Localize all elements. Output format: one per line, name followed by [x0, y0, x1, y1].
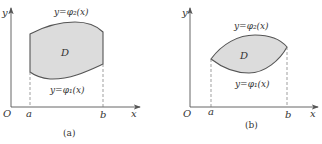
double-integral-regions-figure: y x O a b D y=φ₂(x) y=φ₁(x) (a) y x O a … — [0, 0, 322, 144]
x-axis-label: x — [131, 108, 137, 119]
b-label: b — [285, 109, 291, 120]
origin-label: O — [3, 108, 11, 119]
region-label: D — [239, 50, 248, 61]
panel-b: y x O a b D y=φ₂(x) y=φ₁(x) (b) — [181, 7, 318, 130]
upper-curve-label: y=φ₂(x) — [233, 21, 269, 31]
y-axis-label: y — [1, 7, 8, 18]
lower-curve-label: y=φ₁(x) — [49, 85, 85, 95]
region-d — [211, 35, 287, 73]
lower-curve-label: y=φ₁(x) — [234, 79, 270, 89]
y-axis-label: y — [181, 7, 188, 18]
caption-b: (b) — [245, 120, 258, 130]
a-label: a — [26, 108, 32, 119]
origin-label: O — [183, 108, 191, 119]
upper-curve-label: y=φ₂(x) — [53, 7, 89, 17]
region-label: D — [60, 47, 69, 58]
panel-a: y x O a b D y=φ₂(x) y=φ₁(x) (a) — [1, 7, 140, 138]
b-label: b — [100, 109, 106, 120]
x-axis-label: x — [310, 108, 316, 119]
a-label: a — [208, 106, 214, 117]
caption-a: (a) — [63, 128, 75, 138]
